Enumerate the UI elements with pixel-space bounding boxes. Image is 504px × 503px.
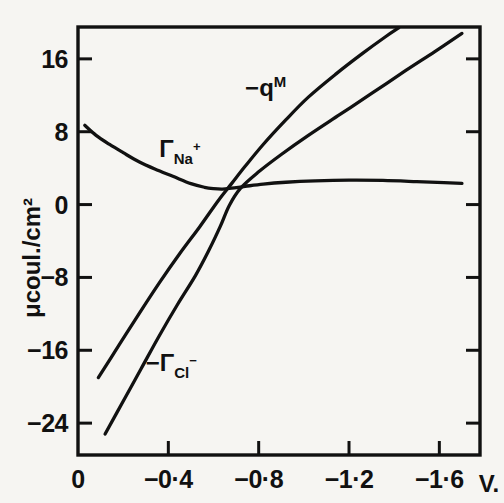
x-tick-label: −1·6 — [415, 465, 464, 493]
label-base: Γ — [159, 135, 174, 162]
x-tick-label: 0 — [71, 465, 84, 493]
x-tick-label: −0·8 — [234, 465, 283, 493]
label-superscript: M — [274, 73, 287, 90]
y-axis-ticks-right — [466, 59, 480, 423]
label-subscript: Cl — [174, 364, 189, 381]
y-axis-title: μcoul./cm² — [18, 198, 45, 318]
y-axis-ticks-left — [78, 59, 92, 423]
label-base: −q — [245, 74, 274, 101]
x-tick-label: −0·4 — [144, 465, 193, 493]
y-tick-label: −24 — [27, 409, 69, 437]
series-annotations: ΓNa+ −qM −ΓCl− — [146, 73, 287, 381]
plot-frame — [78, 27, 480, 455]
x-axis-unit-label: V. — [479, 470, 499, 497]
x-axis-tick-labels: 0−0·4−0·8−1·2−1·6 — [71, 465, 463, 493]
y-tick-label: 16 — [41, 45, 68, 73]
chart-figure: 1680−8−16−24 0−0·4−0·8−1·2−1·6 μcoul./cm… — [0, 0, 504, 503]
chart-canvas: 1680−8−16−24 0−0·4−0·8−1·2−1·6 μcoul./cm… — [0, 0, 504, 503]
label-base: −Γ — [146, 349, 175, 376]
label-superscript: − — [189, 353, 197, 368]
y-tick-label: 8 — [55, 118, 69, 146]
y-tick-label: 0 — [55, 191, 68, 219]
minus-qm-label: −qM — [245, 73, 286, 101]
x-axis-ticks — [168, 441, 439, 455]
gamma-na-label: ΓNa+ — [159, 135, 201, 167]
x-tick-label: −1·2 — [325, 465, 374, 493]
label-subscript: Na — [174, 150, 194, 167]
label-superscript: + — [193, 139, 201, 154]
y-tick-label: −16 — [27, 336, 68, 364]
minus-gamma-cl-label: −ΓCl− — [146, 349, 197, 381]
